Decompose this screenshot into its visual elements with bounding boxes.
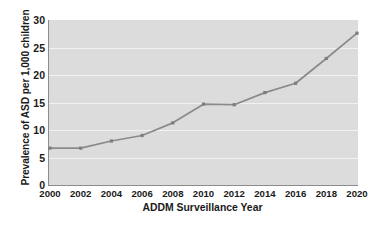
series-marker-group [48,32,358,150]
data-point-marker [355,32,358,35]
data-point-marker [171,121,174,124]
data-point-marker [263,91,266,94]
x-tick-label: 2008 [162,188,183,199]
data-point-marker [233,103,236,106]
x-tick-label: 2006 [131,188,152,199]
x-tick-label: 2012 [224,188,245,199]
data-point-marker [325,57,328,60]
x-tick-label: 2000 [39,188,60,199]
x-tick-label: 2020 [346,188,367,199]
y-tick-label: 20 [33,69,45,81]
y-tick-label: 15 [33,97,45,109]
y-tick-label: 25 [33,42,45,54]
x-tick-label: 2016 [285,188,306,199]
x-tick-label: 2010 [193,188,214,199]
x-axis-title: ADDM Surveillance Year [48,202,357,213]
y-tick-label: 5 [39,152,45,164]
data-point-marker [79,147,82,150]
x-tick-label: 2002 [70,188,91,199]
data-point-marker [110,139,113,142]
y-axis-title: Prevalence of ASD per 1,000 children [20,3,31,193]
data-point-marker [294,82,297,85]
data-point-marker [202,103,205,106]
data-point-marker [141,134,144,137]
x-tick-label: 2018 [316,188,337,199]
x-tick-label: 2014 [254,188,275,199]
y-tick-label: 10 [33,124,45,136]
y-tick-label: 30 [33,14,45,26]
plot-area: 051015202530 200020022004200620082010201… [48,20,358,186]
series-line-path [50,33,357,148]
line-series [49,20,358,185]
x-tick-label: 2004 [101,188,122,199]
data-point-marker [48,147,51,150]
